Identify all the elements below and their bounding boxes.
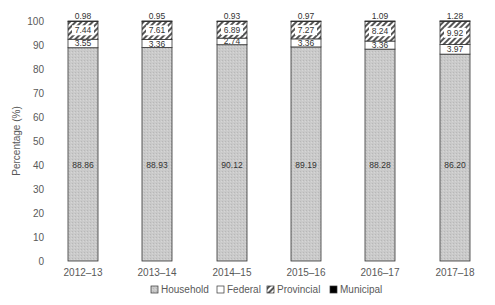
- x-tick-label: 2012–13: [64, 267, 103, 278]
- bar-stack: 89.193.367.270.97: [291, 11, 321, 261]
- x-axis: 2012–132013–142014–152015–162016–172017–…: [64, 267, 475, 278]
- bar-segment-household: [291, 47, 321, 261]
- y-tick-label: 40: [33, 160, 45, 171]
- data-label: 86.20: [444, 160, 466, 170]
- bar-segment-municipal: [217, 21, 247, 22]
- y-tick-label: 60: [33, 112, 45, 123]
- bar-segment-municipal: [68, 21, 98, 22]
- bar-stack: 88.933.367.610.95: [142, 11, 172, 261]
- bar-stack: 88.863.557.440.98: [68, 11, 98, 261]
- bar-segment-municipal: [142, 21, 172, 22]
- legend: HouseholdFederalProvincialMunicipal: [151, 284, 382, 295]
- bar-segment-municipal: [440, 21, 470, 22]
- x-tick-label: 2014–15: [213, 267, 252, 278]
- bar-stack: 90.122.746.890.93: [217, 11, 247, 261]
- y-tick-label: 10: [33, 232, 45, 243]
- y-tick-label: 70: [33, 88, 45, 99]
- data-label: 3.36: [372, 40, 389, 50]
- legend-label: Household: [161, 284, 209, 295]
- x-tick-label: 2015–16: [287, 267, 326, 278]
- data-label: 88.93: [146, 160, 168, 170]
- data-label: 88.86: [72, 160, 94, 170]
- bar-segment-household: [142, 48, 172, 261]
- legend-item-provincial: Provincial: [267, 284, 320, 295]
- legend-label: Municipal: [340, 284, 382, 295]
- y-tick-label: 100: [27, 16, 44, 27]
- x-tick-label: 2017–18: [436, 267, 475, 278]
- data-label: 3.55: [75, 38, 92, 48]
- bar-stack: 86.203.979.921.28: [440, 11, 470, 261]
- legend-label: Provincial: [277, 284, 320, 295]
- data-label: 9.92: [447, 28, 464, 38]
- data-label: 3.36: [149, 39, 166, 49]
- data-label: 7.44: [75, 25, 92, 35]
- bar-segment-household: [217, 45, 247, 261]
- legend-item-federal: Federal: [217, 284, 261, 295]
- y-tick-label: 30: [33, 184, 45, 195]
- data-label: 88.28: [369, 160, 391, 170]
- legend-swatch: [330, 286, 337, 293]
- data-label: 0.95: [149, 11, 166, 21]
- legend-swatch: [217, 286, 224, 293]
- y-axis-label: Percentage (%): [11, 106, 22, 175]
- x-tick-label: 2016–17: [361, 267, 400, 278]
- data-label: 0.97: [298, 11, 315, 21]
- bar-segment-municipal: [365, 21, 395, 22]
- data-label: 3.36: [298, 38, 315, 48]
- data-label: 0.93: [224, 11, 241, 21]
- legend-swatch: [267, 286, 274, 293]
- y-tick-label: 90: [33, 40, 45, 51]
- bar-stack: 88.283.368.241.09: [365, 11, 395, 261]
- y-axis: 0102030405060708090100: [27, 16, 44, 267]
- data-label: 1.09: [372, 11, 389, 21]
- y-tick-label: 80: [33, 64, 45, 75]
- bar-segment-municipal: [291, 21, 321, 22]
- bar-segment-household: [440, 54, 470, 261]
- data-label: 7.27: [298, 25, 315, 35]
- data-label: 7.61: [149, 25, 166, 35]
- y-tick-label: 20: [33, 208, 45, 219]
- bar-segment-household: [68, 48, 98, 261]
- data-label: 1.28: [447, 11, 464, 21]
- data-label: 89.19: [295, 160, 317, 170]
- bars: 88.863.557.440.9888.933.367.610.9590.122…: [68, 11, 470, 261]
- legend-item-municipal: Municipal: [330, 284, 382, 295]
- bar-segment-household: [365, 49, 395, 261]
- y-tick-label: 0: [38, 256, 44, 267]
- data-label: 3.97: [447, 44, 464, 54]
- legend-item-household: Household: [151, 284, 209, 295]
- data-label: 6.89: [224, 25, 241, 35]
- data-label: 90.12: [221, 160, 243, 170]
- y-tick-label: 50: [33, 136, 45, 147]
- data-label: 0.98: [75, 11, 92, 21]
- stacked-bar-chart: 0102030405060708090100 Percentage (%) 88…: [0, 0, 495, 305]
- x-tick-label: 2013–14: [138, 267, 177, 278]
- data-label: 8.24: [372, 26, 389, 36]
- legend-swatch: [151, 286, 158, 293]
- legend-label: Federal: [227, 284, 261, 295]
